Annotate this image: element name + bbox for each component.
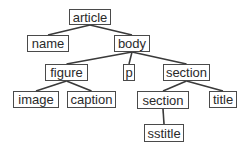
edge-section1-section2 [163,81,187,91]
tree-diagram: article name body figure p section image… [0,0,248,163]
node-section: section [163,64,210,81]
node-name: name [27,35,69,52]
edge-article-body [90,25,132,35]
edge-section2-sstitle [163,109,164,124]
edge-figure-caption [67,81,92,91]
tree-edges [0,0,248,163]
edge-body-section1 [132,52,187,64]
edge-section1-title [187,81,224,91]
node-body: body [114,35,150,52]
node-image: image [13,91,59,108]
edge-article-name [48,25,90,35]
node-figure: figure [45,64,88,81]
edge-figure-image [36,81,67,91]
node-title: title [209,91,237,108]
node-sstitle: sstitle [144,124,184,142]
edge-body-p [129,52,132,64]
node-section-child: section [137,91,189,109]
node-p: p [123,64,135,81]
node-article: article [69,9,111,25]
node-caption: caption [67,91,116,108]
edge-body-figure [67,52,133,64]
